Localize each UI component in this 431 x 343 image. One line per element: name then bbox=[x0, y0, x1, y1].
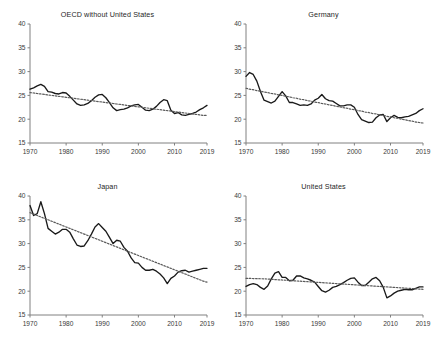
figure-root: OECD without United States 4035302520151… bbox=[0, 0, 431, 343]
y-tick-label: 15 bbox=[234, 139, 242, 146]
x-tick-label: 1990 bbox=[311, 148, 326, 155]
trend-line-path bbox=[30, 93, 207, 116]
plot-area-united-states: 403530252015197019801990200020102019 bbox=[216, 172, 431, 343]
y-tick-label: 15 bbox=[18, 139, 26, 146]
y-tick-label: 15 bbox=[18, 311, 26, 318]
y-tick-label: 35 bbox=[234, 216, 242, 223]
y-tick-label: 35 bbox=[18, 216, 26, 223]
y-tick-label: 25 bbox=[234, 264, 242, 271]
y-tick-label: 20 bbox=[234, 288, 242, 295]
x-tick-label: 2010 bbox=[383, 148, 398, 155]
panel-japan: Japan 4035302520151970198019902000201020… bbox=[0, 172, 215, 343]
x-tick-label: 2000 bbox=[131, 148, 146, 155]
y-tick-label: 25 bbox=[18, 92, 26, 99]
x-tick-label: 2019 bbox=[416, 320, 431, 327]
y-tick-label: 20 bbox=[18, 288, 26, 295]
x-tick-label: 2000 bbox=[347, 148, 362, 155]
y-tick-label: 30 bbox=[234, 240, 242, 247]
plot-area-germany: 403530252015197019801990200020102019 bbox=[216, 0, 431, 171]
x-tick-label: 2010 bbox=[167, 320, 182, 327]
x-tick-label: 1970 bbox=[23, 148, 38, 155]
plot-area-oecd-without-us: 403530252015197019801990200020102019 bbox=[0, 0, 215, 171]
x-tick-label: 2010 bbox=[167, 148, 182, 155]
y-tick-label: 25 bbox=[18, 264, 26, 271]
y-tick-label: 40 bbox=[18, 20, 26, 27]
data-line-path bbox=[246, 73, 423, 123]
y-tick-label: 30 bbox=[18, 240, 26, 247]
y-tick-label: 20 bbox=[18, 116, 26, 123]
x-tick-label: 1970 bbox=[239, 148, 254, 155]
y-tick-label: 35 bbox=[234, 44, 242, 51]
y-tick-label: 40 bbox=[234, 192, 242, 199]
data-line-path bbox=[30, 202, 207, 284]
y-tick-label: 20 bbox=[234, 116, 242, 123]
x-tick-label: 2010 bbox=[383, 320, 398, 327]
x-tick-label: 2000 bbox=[347, 320, 362, 327]
x-tick-label: 1970 bbox=[23, 320, 38, 327]
x-tick-label: 2019 bbox=[416, 148, 431, 155]
panel-oecd-without-us: OECD without United States 4035302520151… bbox=[0, 0, 215, 171]
y-tick-label: 40 bbox=[234, 20, 242, 27]
x-tick-label: 2019 bbox=[200, 320, 215, 327]
y-tick-label: 35 bbox=[18, 44, 26, 51]
y-tick-label: 25 bbox=[234, 92, 242, 99]
x-tick-label: 1980 bbox=[275, 320, 290, 327]
x-tick-label: 1980 bbox=[59, 320, 74, 327]
panel-germany: Germany 40353025201519701980199020002010… bbox=[216, 0, 431, 171]
x-tick-label: 1990 bbox=[95, 320, 110, 327]
y-tick-label: 30 bbox=[234, 68, 242, 75]
x-tick-label: 1970 bbox=[239, 320, 254, 327]
trend-line-path bbox=[30, 213, 207, 283]
y-tick-label: 40 bbox=[18, 192, 26, 199]
trend-line-path bbox=[246, 88, 423, 123]
y-tick-label: 30 bbox=[18, 68, 26, 75]
x-tick-label: 1990 bbox=[95, 148, 110, 155]
data-line-path bbox=[30, 84, 207, 115]
data-line-path bbox=[246, 272, 423, 298]
x-tick-label: 1980 bbox=[275, 148, 290, 155]
x-tick-label: 1980 bbox=[59, 148, 74, 155]
panel-united-states: United States 40353025201519701980199020… bbox=[216, 172, 431, 343]
plot-area-japan: 403530252015197019801990200020102019 bbox=[0, 172, 215, 343]
x-tick-label: 2019 bbox=[200, 148, 215, 155]
trend-line-path bbox=[246, 278, 423, 289]
x-tick-label: 2000 bbox=[131, 320, 146, 327]
x-tick-label: 1990 bbox=[311, 320, 326, 327]
y-tick-label: 15 bbox=[234, 311, 242, 318]
